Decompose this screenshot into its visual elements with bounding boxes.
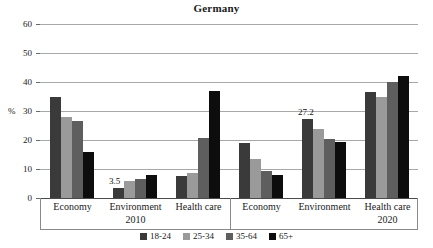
category-label: Economy xyxy=(230,201,293,212)
category-label: Environment xyxy=(293,201,356,212)
legend-item[interactable]: 35-64 xyxy=(226,232,257,241)
bar xyxy=(376,97,387,198)
y-tick-mark-40 xyxy=(36,82,40,83)
legend-swatch-icon xyxy=(226,233,233,240)
y-tick-mark-30 xyxy=(36,111,40,112)
category-label: Economy xyxy=(41,201,104,212)
y-tick-mark-10 xyxy=(36,169,40,170)
plot-area: 3.527.2 xyxy=(40,24,418,198)
bar xyxy=(302,119,313,198)
bar xyxy=(113,188,124,198)
y-tick-label-60: 60 xyxy=(10,20,32,29)
bar xyxy=(124,181,135,198)
legend-label: 25-34 xyxy=(193,232,214,241)
legend-swatch-icon xyxy=(183,233,190,240)
bar xyxy=(250,159,261,198)
y-tick-label-20: 20 xyxy=(10,136,32,145)
bar xyxy=(324,139,335,198)
y-tick-label-0: 0 xyxy=(10,194,32,203)
bar xyxy=(261,171,272,198)
legend-item[interactable]: 65+ xyxy=(269,232,293,241)
legend-label: 35-64 xyxy=(236,232,257,241)
bar xyxy=(239,143,250,198)
bar xyxy=(387,82,398,198)
bar xyxy=(313,129,324,198)
legend-item[interactable]: 25-34 xyxy=(183,232,214,241)
y-tick-label-30: 30 xyxy=(10,107,32,116)
bar xyxy=(176,176,187,198)
panel-year-label: 2020 xyxy=(356,214,419,225)
category-label: Environment xyxy=(104,201,167,212)
bar xyxy=(61,117,72,198)
bar xyxy=(187,173,198,198)
y-tick-mark-60 xyxy=(36,24,40,25)
legend-label: 65+ xyxy=(279,232,293,241)
legend-item[interactable]: 18-24 xyxy=(140,232,171,241)
bar xyxy=(135,179,146,198)
bar xyxy=(83,152,94,198)
bar xyxy=(146,175,157,198)
category-label: Health care xyxy=(167,201,230,212)
legend-label: 18-24 xyxy=(150,232,171,241)
bars-layer xyxy=(40,24,418,198)
chart-legend: 18-2425-3435-6465+ xyxy=(0,232,433,241)
panel-year-label: 2010 xyxy=(104,214,167,225)
bar-value-label: 27.2 xyxy=(298,108,314,117)
bar xyxy=(335,142,346,198)
bar xyxy=(365,92,376,198)
chart-title: Germany xyxy=(0,2,433,14)
category-axis: EconomyEnvironmentHealth careEconomyEnvi… xyxy=(40,198,418,230)
y-tick-label-10: 10 xyxy=(10,165,32,174)
chart-container: Germany % 3.527.2 0102030405060 EconomyE… xyxy=(0,0,433,248)
legend-swatch-icon xyxy=(140,233,147,240)
bar xyxy=(272,175,283,198)
bar xyxy=(50,97,61,199)
bar xyxy=(398,76,409,198)
y-tick-mark-50 xyxy=(36,53,40,54)
y-tick-label-50: 50 xyxy=(10,49,32,58)
category-label: Health care xyxy=(356,201,419,212)
y-tick-mark-20 xyxy=(36,140,40,141)
y-tick-label-40: 40 xyxy=(10,78,32,87)
bar xyxy=(209,91,220,198)
bar xyxy=(198,138,209,198)
legend-swatch-icon xyxy=(269,233,276,240)
bar xyxy=(72,121,83,198)
bar-value-label: 3.5 xyxy=(109,177,120,186)
